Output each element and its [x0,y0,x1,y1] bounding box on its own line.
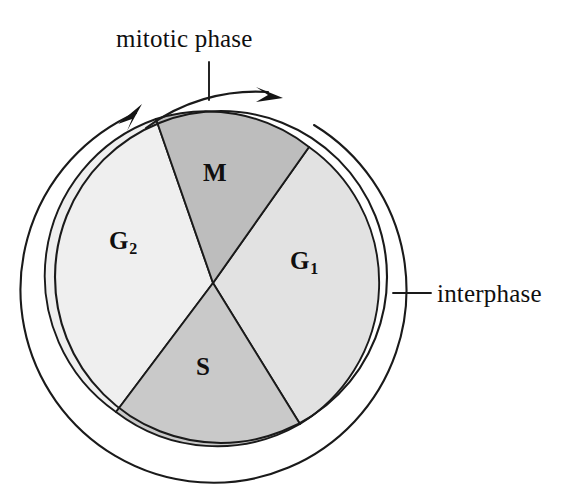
sector-label-m: M [203,160,227,185]
mitotic-phase-arrowhead [256,87,283,102]
sector-label-g1: G1 [290,248,318,277]
interphase-label: interphase [437,281,542,306]
sector-label-g2: G2 [109,228,137,257]
cell-cycle-diagram: mitotic phase interphase M G2 G1 S [0,0,580,496]
sector-label-g2-subscript: 2 [129,240,137,257]
sector-label-g1-letter: G [290,247,310,274]
mitotic-phase-label: mitotic phase [116,26,253,51]
sector-label-g2-letter: G [109,227,129,254]
sector-label-s: S [196,354,210,379]
sector-label-g1-subscript: 1 [310,260,318,277]
